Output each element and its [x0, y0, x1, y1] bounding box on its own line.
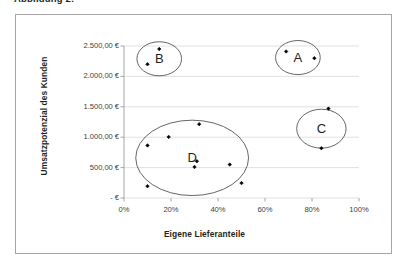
data-point: [240, 181, 244, 185]
cluster-label-d: D: [172, 151, 212, 164]
x-tick-label: 0%: [99, 205, 149, 214]
data-point: [320, 146, 324, 150]
x-tick-label: 20%: [146, 205, 196, 214]
cluster-label-a: A: [278, 51, 318, 64]
data-point: [146, 184, 150, 188]
x-tick-label: 80%: [287, 205, 337, 214]
data-point: [193, 165, 197, 169]
figure-caption-text: Abbildung 2:: [14, 0, 74, 4]
cluster-label-b: B: [139, 52, 179, 65]
x-tick-label: 60%: [240, 205, 290, 214]
data-point: [228, 163, 232, 167]
y-tick-label: 500,00 €: [49, 163, 119, 172]
figure-frame: - €500,00 €1.000,00 €1.500,00 €2.000,00 …: [15, 14, 392, 254]
x-tick-label: 100%: [334, 205, 384, 214]
y-tick-label: 1.500,00 €: [49, 102, 119, 111]
figure-caption-strip: Abbildung 2:: [14, 0, 134, 7]
data-point: [146, 144, 150, 148]
y-axis-title: Umsatzpotenzial des Kunden: [39, 41, 49, 191]
data-point: [197, 122, 201, 126]
y-tick-label: 1.000,00 €: [49, 132, 119, 141]
data-point: [167, 135, 171, 139]
x-tick-label: 40%: [193, 205, 243, 214]
y-tick-label: 2.500,00 €: [49, 41, 119, 50]
y-tick-label: 2.000,00 €: [49, 71, 119, 80]
data-points-group: [146, 47, 330, 188]
scatter-chart: - €500,00 €1.000,00 €1.500,00 €2.000,00 …: [16, 15, 393, 255]
x-axis-title: Eigene Lieferanteile: [16, 229, 393, 239]
cluster-label-c: C: [301, 122, 341, 135]
y-tick-label: - €: [49, 193, 119, 202]
